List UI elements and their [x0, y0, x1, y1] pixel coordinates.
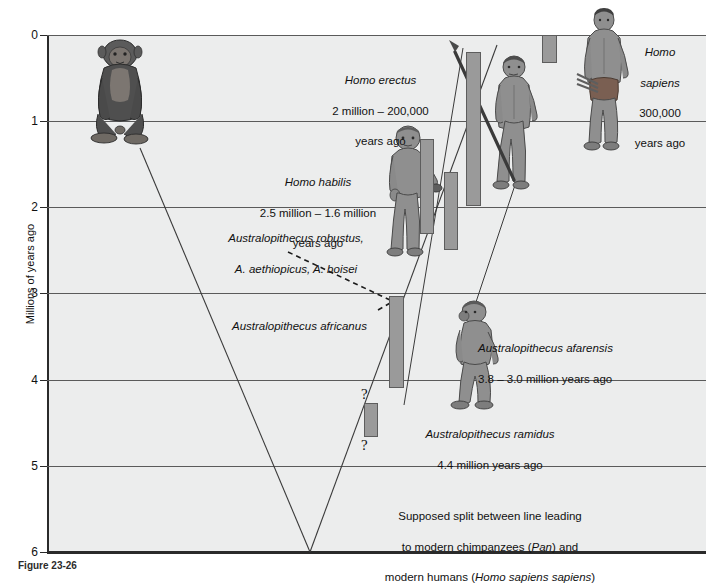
label-ramidus-species: Australopithecus ramidus — [390, 427, 590, 442]
split-note-line2-a: to modern chimpanzees ( — [402, 541, 532, 553]
label-split-note-line3: modern humans (Homo sapiens sapiens) — [340, 570, 640, 585]
question-mark-top: ? — [361, 386, 368, 403]
label-split-note: Supposed split between line leading to m… — [340, 494, 640, 587]
ytick-label-1: 1 — [24, 115, 38, 127]
label-ramidus-range: 4.4 million years ago — [390, 458, 590, 473]
label-robustus-group-line1: Australopithecus robustus, — [196, 231, 396, 246]
label-homo-erectus-range: 2 million – 200,000 — [288, 104, 473, 119]
ytick-mark-5 — [40, 466, 47, 467]
range-bar-australopithecus-ramidus — [364, 403, 378, 437]
ytick-mark-1 — [40, 121, 47, 122]
ytick-label-0: 0 — [24, 29, 38, 41]
label-afarensis-species: Australopithecus afarensis — [478, 341, 688, 356]
label-homo-erectus-species: Homo erectus — [288, 73, 473, 88]
split-note-line3-b: ) — [591, 571, 595, 583]
label-afarensis-range: 3.8 – 3.0 million years ago — [478, 372, 688, 387]
label-robustus-group: Australopithecus robustus, A. aethiopicu… — [196, 216, 396, 292]
range-bar-homo-sapiens — [542, 35, 557, 63]
range-bar-homo-habilis — [444, 172, 458, 250]
label-homo-sapiens-species: sapiens — [620, 76, 700, 91]
ytick-mark-4 — [40, 380, 47, 381]
label-robustus-group-line2: A. aethiopicus, A. boisei — [196, 262, 396, 277]
label-homo-sapiens-genus: Homo — [620, 45, 700, 60]
ytick-mark-2 — [40, 207, 47, 208]
ytick-label-4: 4 — [24, 374, 38, 386]
label-homo-sapiens-range: 300,000 — [620, 106, 700, 121]
split-note-line2-b: ) and — [552, 541, 578, 553]
label-australopithecus-africanus: Australopithecus africanus — [232, 304, 392, 350]
split-note-pan: Pan — [532, 541, 552, 553]
label-australopithecus-ramidus: Australopithecus ramidus 4.4 million yea… — [390, 412, 590, 488]
ytick-mark-3 — [40, 293, 47, 294]
ytick-label-6: 6 — [24, 546, 38, 558]
figure-caption: Figure 23-26 — [18, 560, 77, 571]
label-split-note-line2: to modern chimpanzees (Pan) and — [340, 540, 640, 555]
label-homo-sapiens: Homo sapiens 300,000 years ago — [620, 30, 700, 167]
gridline-3 — [47, 293, 706, 294]
y-axis-title: Millions of years ago — [24, 174, 36, 374]
label-homo-erectus: Homo erectus 2 million – 200,000 years a… — [288, 58, 473, 164]
gridline-0 — [47, 35, 706, 36]
ytick-mark-0 — [40, 35, 47, 36]
label-homo-erectus-suffix: years ago — [288, 134, 473, 149]
label-australopithecus-afarensis: Australopithecus afarensis 3.8 – 3.0 mil… — [478, 326, 688, 402]
ytick-label-5: 5 — [24, 460, 38, 472]
label-africanus-species: Australopithecus africanus — [232, 319, 392, 334]
label-homo-sapiens-suffix: years ago — [620, 136, 700, 151]
gridline-5 — [47, 466, 706, 467]
question-mark-bottom: ? — [361, 437, 368, 454]
label-split-note-line1: Supposed split between line leading — [340, 509, 640, 524]
ytick-mark-6 — [40, 552, 47, 553]
label-homo-habilis-species: Homo habilis — [218, 175, 418, 190]
split-note-line3-a: modern humans ( — [385, 571, 475, 583]
split-note-hss: Homo sapiens sapiens — [475, 571, 591, 583]
